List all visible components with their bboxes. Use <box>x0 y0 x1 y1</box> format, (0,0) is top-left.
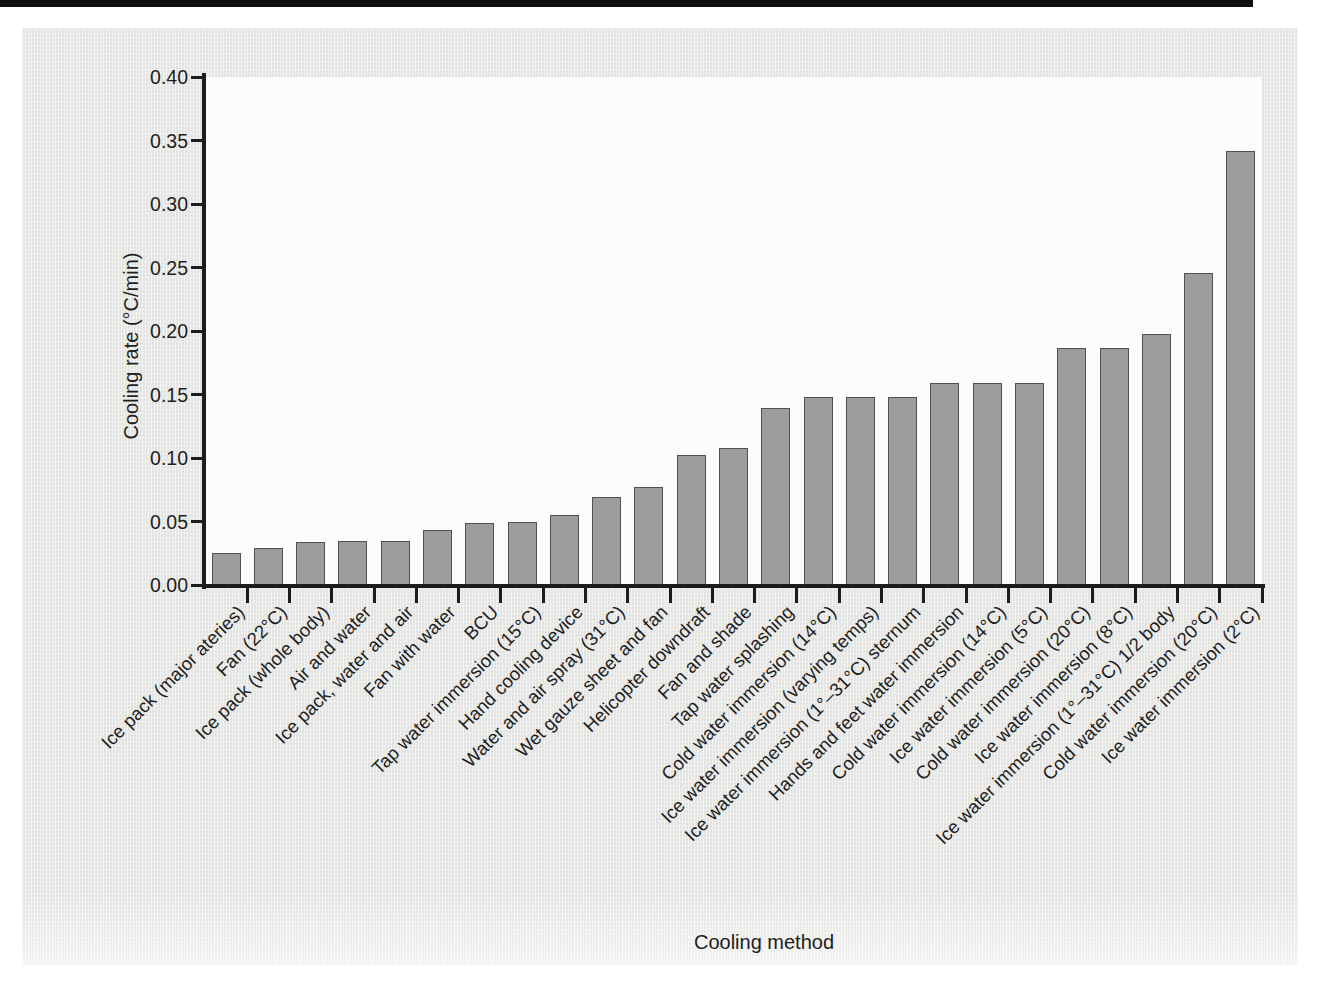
x-tick <box>1049 588 1052 603</box>
bar <box>677 455 706 587</box>
bar <box>1184 273 1213 587</box>
bar <box>1226 151 1255 587</box>
bar <box>423 530 452 587</box>
x-tick <box>1261 588 1264 603</box>
x-tick <box>373 588 376 603</box>
x-tick <box>626 588 629 603</box>
y-tick <box>191 457 204 460</box>
bar <box>212 553 241 587</box>
y-tick-label: 0.15 <box>118 384 188 406</box>
x-axis-line <box>202 584 1265 588</box>
bar <box>973 383 1002 587</box>
x-tick <box>711 588 714 603</box>
bar <box>634 487 663 587</box>
bar <box>1015 383 1044 587</box>
bar <box>254 548 283 587</box>
x-tick <box>965 588 968 603</box>
y-tick-label: 0.25 <box>118 257 188 279</box>
y-tick-label: 0.10 <box>118 447 188 469</box>
bar <box>338 541 367 587</box>
y-tick <box>191 584 204 587</box>
y-tick <box>191 520 204 523</box>
x-tick <box>922 588 925 603</box>
x-tick <box>330 588 333 603</box>
y-tick <box>191 330 204 333</box>
x-tick <box>880 588 883 603</box>
x-tick <box>499 588 502 603</box>
bar <box>719 448 748 587</box>
bar <box>465 523 494 587</box>
x-tick <box>246 588 249 603</box>
bar <box>1100 348 1129 587</box>
y-tick <box>191 203 204 206</box>
y-tick <box>191 393 204 396</box>
bar <box>296 542 325 587</box>
x-tick <box>288 588 291 603</box>
x-tick <box>542 588 545 603</box>
bar <box>1057 348 1086 587</box>
bar <box>381 541 410 587</box>
bar <box>846 397 875 587</box>
x-tick <box>584 588 587 603</box>
y-tick-label: 0.40 <box>118 66 188 88</box>
bar <box>888 397 917 587</box>
bar <box>1142 334 1171 587</box>
x-tick <box>1091 588 1094 603</box>
bar <box>761 408 790 587</box>
x-tick <box>457 588 460 603</box>
y-tick <box>191 139 204 142</box>
y-tick-label: 0.05 <box>118 511 188 533</box>
y-tick <box>191 266 204 269</box>
x-tick <box>669 588 672 603</box>
bar <box>804 397 833 587</box>
y-tick-label: 0.00 <box>118 574 188 596</box>
x-tick <box>1134 588 1137 603</box>
x-tick <box>795 588 798 603</box>
scanned-figure-page: Cooling rate (°C/min) Cooling method 0.0… <box>0 0 1319 985</box>
x-tick <box>1176 588 1179 603</box>
bar <box>592 497 621 587</box>
bar <box>550 515 579 587</box>
scan-edge-strip <box>0 0 1253 7</box>
y-tick <box>191 76 204 79</box>
y-tick-label: 0.30 <box>118 193 188 215</box>
x-axis-title: Cooling method <box>614 931 914 954</box>
y-tick-label: 0.35 <box>118 130 188 152</box>
y-tick-label: 0.20 <box>118 320 188 342</box>
x-tick <box>753 588 756 603</box>
bar <box>930 383 959 587</box>
x-tick <box>1007 588 1010 603</box>
x-tick <box>415 588 418 603</box>
x-tick <box>1218 588 1221 603</box>
x-tick <box>838 588 841 603</box>
bar <box>508 522 537 588</box>
